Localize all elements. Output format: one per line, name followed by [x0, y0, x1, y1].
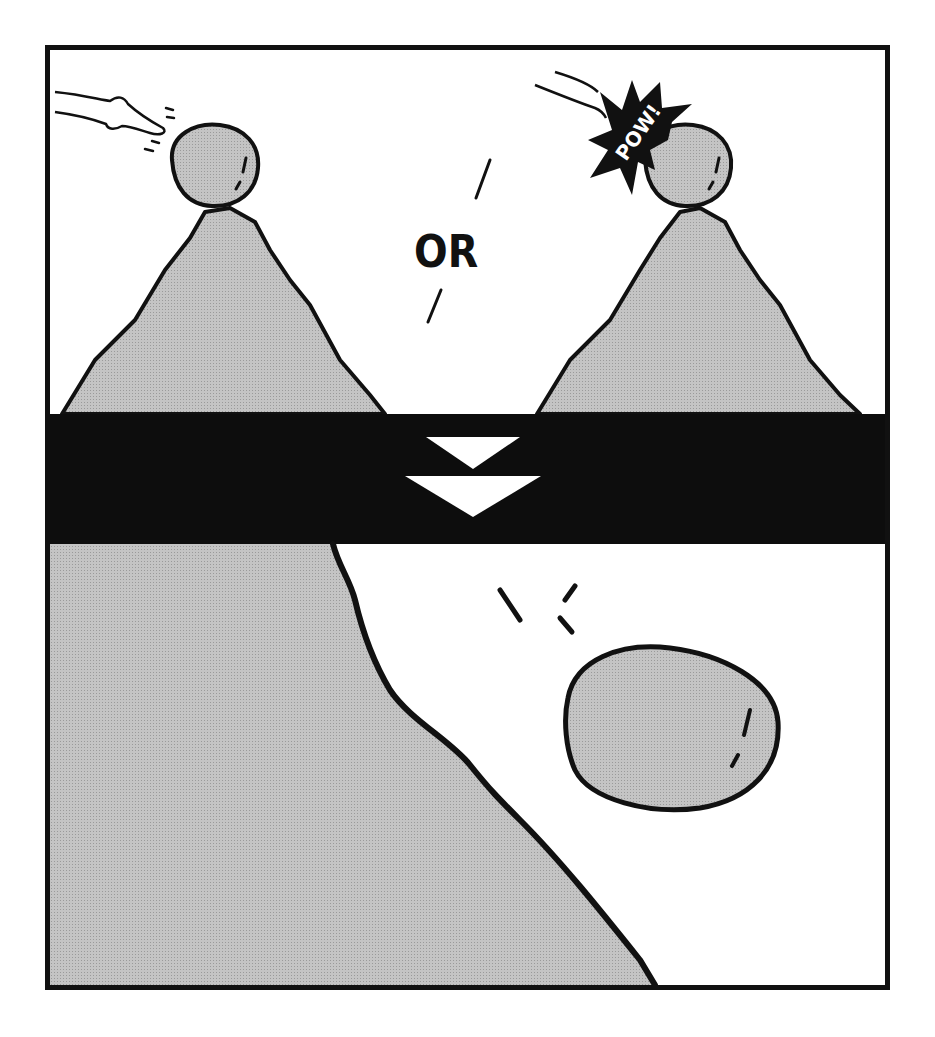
or-label: OR — [414, 226, 478, 277]
motion-lines — [500, 586, 575, 632]
left-mountain — [62, 208, 385, 414]
cliff-slope — [50, 544, 655, 985]
punching-arm-icon — [535, 72, 606, 118]
falling-boulder — [566, 647, 779, 810]
left-boulder — [172, 125, 258, 206]
right-mountain — [537, 208, 860, 414]
comic-illustration: POW! — [0, 0, 935, 1037]
pointing-hand-icon — [55, 92, 174, 151]
